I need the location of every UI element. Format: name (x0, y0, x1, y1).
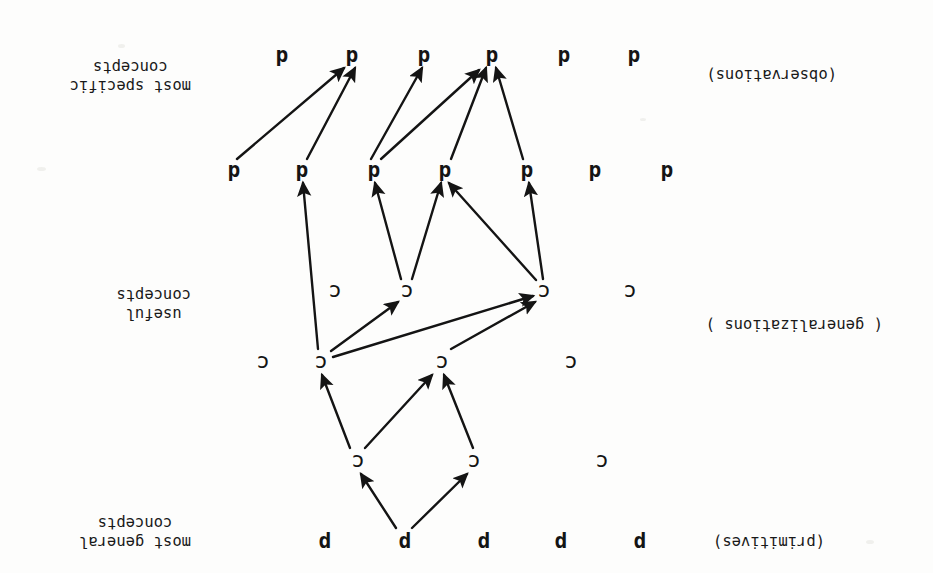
edge-d1f-to-d2e (307, 68, 355, 159)
graph-node-concept: c (595, 451, 608, 473)
scan-speck (640, 118, 646, 121)
graph-node-primitive: p (319, 532, 332, 553)
graph-node-concept: c (467, 451, 480, 473)
tier-label-bottom: most specificconcepts (70, 57, 191, 95)
concept-hierarchy-diagram: pppppcccccccccccddddddddddddd most gener… (0, 0, 933, 573)
graph-node-concept: c (564, 352, 577, 374)
graph-node-concept: c (328, 281, 341, 303)
row-label-generalizations: ( generalizations ) (706, 315, 883, 334)
edge-d1g-to-d2e (237, 68, 344, 159)
scan-speck (118, 44, 125, 48)
graph-node-datum: d (558, 46, 571, 67)
graph-node-datum: d (228, 161, 241, 182)
graph-node-primitive: p (478, 532, 491, 553)
edge-c3c-to-d1e (375, 183, 401, 279)
graph-node-datum: d (486, 46, 499, 67)
edge-c1c-to-c2c (322, 375, 350, 448)
graph-node-concept: c (256, 352, 269, 374)
tier-label-top: most generalconcepts (79, 513, 191, 551)
graph-node-datum: d (661, 161, 674, 182)
scan-speck (866, 540, 874, 544)
scanned-figure-page: pppppcccccccccccddddddddddddd most gener… (0, 0, 933, 573)
row-label-observations: (observations) (706, 65, 837, 84)
graph-node-datum: d (589, 161, 602, 182)
tier-label-middle: usefulconcepts (116, 285, 191, 323)
edge-c1b-to-c2b (444, 375, 473, 448)
tier-label-line: most general (79, 532, 191, 551)
graph-node-concept: c (623, 281, 636, 303)
edge-c3b-to-d1c (529, 183, 543, 279)
tier-label-line: concepts (79, 513, 191, 532)
edge-d1e-to-d2c (381, 70, 479, 159)
graph-node-datum: d (628, 46, 641, 67)
tier-label-line: most specific (70, 76, 191, 95)
edge-p4-to-c1c (361, 474, 396, 528)
graph-node-datum: d (276, 46, 289, 67)
graph-node-primitive: p (399, 532, 412, 553)
graph-node-datum: d (368, 161, 381, 182)
edge-c3b-to-d1d (449, 183, 536, 280)
graph-node-datum: d (521, 161, 534, 182)
edge-group (237, 68, 543, 528)
edge-c2c-to-d1f (303, 183, 318, 349)
graph-node-concept: c (314, 352, 327, 374)
edge-d1d-to-d2c (451, 68, 486, 159)
edge-p4-to-c1b (412, 474, 467, 528)
graph-node-concept: c (400, 281, 413, 303)
graph-node-datum: d (439, 161, 452, 182)
graph-node-concept: c (351, 451, 364, 473)
edge-c2b-to-c3b (451, 302, 535, 349)
graph-node-datum: d (346, 46, 359, 67)
graph-node-datum: d (418, 46, 431, 67)
graph-node-datum: d (296, 161, 309, 182)
graph-node-concept: c (435, 352, 448, 374)
edge-c1c-to-c2b (365, 375, 432, 448)
scan-speck (37, 167, 46, 171)
edge-d1c-to-d2c (496, 68, 523, 159)
tier-label-line: useful (116, 304, 191, 323)
tier-label-line: concepts (70, 57, 191, 76)
graph-node-primitive: p (634, 532, 647, 553)
graph-node-primitive: p (555, 532, 568, 553)
tier-label-line: concepts (116, 285, 191, 304)
edge-d1e-to-d2d (371, 68, 422, 159)
edge-c2c-to-c3c (331, 302, 398, 351)
row-label-primitives: (primitives) (713, 532, 825, 551)
edge-c3c-to-d1d (412, 183, 441, 279)
graph-node-concept: c (537, 281, 550, 303)
edge-c2c-to-c3b (333, 296, 533, 357)
